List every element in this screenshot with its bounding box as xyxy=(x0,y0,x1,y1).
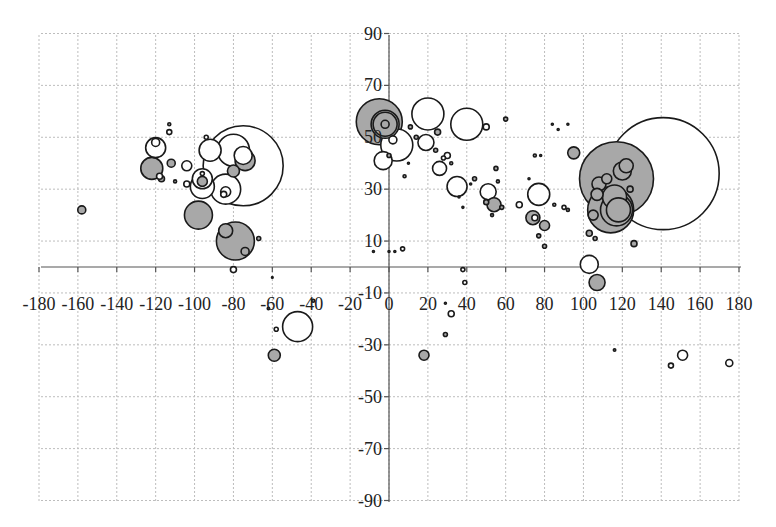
bubble-point xyxy=(473,177,477,181)
x-tick-label: 40 xyxy=(458,294,476,314)
bubble-point xyxy=(387,153,391,157)
bubble-point xyxy=(580,255,598,273)
bubble-point xyxy=(414,135,418,139)
bubble-point xyxy=(533,154,536,157)
y-tick-label: 70 xyxy=(364,75,382,95)
bubble-point xyxy=(567,123,569,125)
bubble-point xyxy=(451,108,483,140)
bubble-point xyxy=(182,161,192,171)
bubble-point xyxy=(619,159,633,173)
y-tick-label: 30 xyxy=(364,179,382,199)
bubbles xyxy=(78,98,733,368)
bubble-point xyxy=(566,208,569,211)
bubble-point xyxy=(540,220,550,230)
bubble-point xyxy=(230,267,236,273)
bubble-point xyxy=(557,128,559,130)
bubble-point xyxy=(152,138,160,146)
bubble-point xyxy=(408,125,412,129)
y-tick-label: 50 xyxy=(364,127,382,147)
bubble-point xyxy=(268,349,280,361)
bubble-point xyxy=(461,268,465,272)
bubble-point xyxy=(221,191,227,197)
bubble-point xyxy=(219,224,233,238)
bubble-point xyxy=(168,123,171,126)
bubble-point xyxy=(447,177,467,197)
bubble-point xyxy=(586,230,592,236)
bubble-point xyxy=(591,188,603,200)
bubble-point xyxy=(443,332,447,336)
bubble-point xyxy=(678,350,688,360)
bubble-point xyxy=(562,205,566,209)
bubble-point xyxy=(200,172,204,176)
bubble-point xyxy=(167,159,175,167)
bubble-point xyxy=(458,196,460,198)
bubble-point xyxy=(504,117,508,121)
bubble-point xyxy=(516,202,522,208)
x-tick-label: -160 xyxy=(61,294,94,314)
x-tick-label: 20 xyxy=(419,294,437,314)
x-tick-label: -140 xyxy=(100,294,133,314)
bubble-point xyxy=(227,165,239,177)
bubble-point xyxy=(394,250,396,252)
bubble-point xyxy=(483,124,489,130)
bubble-point xyxy=(274,327,278,331)
bubble-point xyxy=(257,236,261,240)
y-tick-label: -90 xyxy=(358,491,382,511)
x-tick-label: -100 xyxy=(178,294,211,314)
bubble-point xyxy=(199,139,221,161)
y-tick-label: -50 xyxy=(358,387,382,407)
y-tick-label: -70 xyxy=(358,439,382,459)
bubble-point xyxy=(403,175,406,178)
bubble-point xyxy=(537,234,541,238)
x-tick-label: 140 xyxy=(648,294,675,314)
bubble-point xyxy=(174,180,177,183)
bubble-point xyxy=(401,247,405,251)
bubble-point xyxy=(184,201,212,229)
figure-caption xyxy=(200,514,600,527)
x-tick-label: -80 xyxy=(221,294,245,314)
bubble-point xyxy=(412,98,444,130)
bubble-point xyxy=(553,203,556,206)
bubble-point xyxy=(496,180,499,183)
bubble-point xyxy=(389,136,397,144)
x-tick-label: 120 xyxy=(609,294,636,314)
bubble-point xyxy=(435,129,441,135)
x-tick-label: -120 xyxy=(139,294,172,314)
bubble-point xyxy=(602,174,612,184)
bubble-point xyxy=(433,161,447,175)
bubble-point xyxy=(184,181,190,187)
bubble-chart: -180-160-140-120-100-80-60-40-2002040608… xyxy=(0,0,776,527)
bubble-point xyxy=(613,349,615,351)
bubble-point xyxy=(283,312,313,342)
bubble-point xyxy=(568,147,580,159)
x-tick-label: 80 xyxy=(536,294,554,314)
bubble-point xyxy=(532,215,538,221)
y-tick-label: -30 xyxy=(358,335,382,355)
bubble-point xyxy=(593,236,597,240)
bubble-point xyxy=(434,148,438,152)
bubble-point xyxy=(462,206,464,208)
bubble-point xyxy=(494,166,498,170)
bubble-point xyxy=(204,135,208,139)
bubble-point xyxy=(500,205,504,209)
x-tick-label: -40 xyxy=(299,294,323,314)
x-tick-label: 0 xyxy=(385,294,394,314)
y-tick-label: 10 xyxy=(364,231,382,251)
bubble-point xyxy=(627,186,633,192)
bubble-point xyxy=(450,162,453,165)
bubble-point xyxy=(551,123,553,125)
bubble-point xyxy=(381,120,389,128)
bubble-point xyxy=(540,154,542,156)
bubble-point xyxy=(448,311,454,317)
bubble-point xyxy=(484,200,489,205)
x-tick-label: 100 xyxy=(570,294,597,314)
bubble-point xyxy=(157,173,163,179)
bubble-point xyxy=(78,206,86,214)
bubble-point xyxy=(487,198,501,212)
y-tick-label: 90 xyxy=(364,24,382,44)
bubble-point xyxy=(543,244,547,248)
bubble-point xyxy=(407,162,409,164)
bubble-point xyxy=(418,134,434,150)
bubble-point xyxy=(419,350,429,360)
bubble-point xyxy=(444,302,446,304)
